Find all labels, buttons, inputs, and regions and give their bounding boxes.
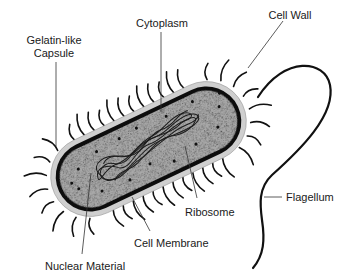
pilus — [181, 176, 191, 192]
ribosome-label: Ribosome — [185, 206, 235, 218]
pilus — [115, 98, 127, 117]
pilus — [103, 100, 116, 122]
pilus — [249, 99, 271, 114]
pilus — [112, 209, 124, 228]
pilus — [24, 167, 46, 184]
pilus — [163, 72, 176, 94]
cell-wall-leader — [248, 21, 283, 68]
pilus — [142, 195, 154, 214]
pilus — [85, 112, 97, 131]
pilus — [247, 132, 261, 148]
pilus — [86, 218, 97, 234]
pilus — [239, 145, 253, 167]
pilus — [66, 124, 76, 140]
pilus — [201, 63, 214, 79]
pilus — [251, 116, 270, 133]
cell-body — [7, 37, 292, 259]
pilus — [230, 72, 249, 86]
pilus — [96, 110, 106, 126]
cell-membrane-leader — [132, 197, 150, 231]
pilus — [47, 212, 69, 231]
pilus — [67, 217, 83, 236]
pilus — [42, 135, 57, 154]
capsule-label-line2: Capsule — [34, 47, 74, 59]
pilus — [122, 204, 132, 220]
pilus — [211, 162, 221, 178]
pilus — [34, 152, 50, 167]
pilus — [174, 70, 186, 89]
capsule-label-line1: Gelatin-like — [26, 34, 81, 46]
pilus — [171, 181, 183, 200]
pilus — [214, 60, 235, 81]
pilus — [221, 157, 234, 179]
flagellum — [253, 66, 331, 268]
pilus — [39, 201, 55, 213]
pilus — [133, 86, 146, 108]
cell-membrane-label: Cell Membrane — [134, 237, 209, 249]
cell-wall-label: Cell Wall — [269, 9, 312, 21]
pilus — [126, 96, 136, 112]
pilus — [74, 114, 87, 136]
pilus — [144, 84, 156, 103]
pilus — [201, 167, 213, 186]
pilus — [29, 186, 48, 197]
cytoplasm-label: Cytoplasm — [136, 17, 188, 29]
pilus — [162, 185, 175, 207]
flagellum-label: Flagellum — [286, 191, 334, 203]
pilus — [242, 87, 258, 96]
nuclear-material-label: Nuclear Material — [45, 260, 125, 272]
cytoplasm — [49, 80, 247, 218]
pilus — [152, 190, 162, 206]
bacterium-diagram: Gelatin-like Capsule Cytoplasm Cell Wall… — [0, 0, 350, 278]
